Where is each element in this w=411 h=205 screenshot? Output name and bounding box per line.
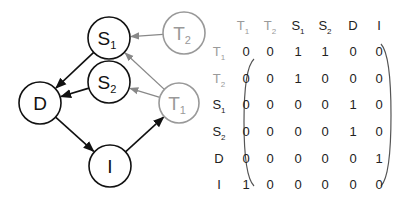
matrix-cell: 0 — [266, 97, 273, 112]
matrix-cell: 0 — [349, 151, 356, 166]
matrix-cells: 001100001000000010000010000001100000 — [242, 44, 382, 192]
column-header: S1 — [291, 18, 305, 36]
matrix-cell: 1 — [349, 97, 356, 112]
column-header: T1 — [237, 18, 250, 36]
matrix-cell: 0 — [375, 97, 382, 112]
matrix-cell: 0 — [294, 124, 301, 139]
matrix-cell: 0 — [294, 151, 301, 166]
matrix-cell: 0 — [375, 177, 382, 192]
matrix-cell: 0 — [349, 177, 356, 192]
matrix-cell: 0 — [321, 97, 328, 112]
matrix-cell: 0 — [242, 151, 249, 166]
matrix-cell: 0 — [242, 71, 249, 86]
matrix-cell: 0 — [375, 44, 382, 59]
matrix-cell: 0 — [321, 71, 328, 86]
column-header: I — [377, 18, 381, 33]
matrix-cell: 1 — [242, 177, 249, 192]
matrix-cell: 0 — [242, 97, 249, 112]
row-header: T2 — [213, 71, 226, 89]
matrix-cell: 0 — [266, 177, 273, 192]
row-header: T1 — [213, 44, 226, 62]
row-header: I — [217, 177, 221, 192]
matrix-cell: 0 — [266, 44, 273, 59]
row-header: S1 — [212, 97, 226, 115]
matrix-cell: 0 — [321, 124, 328, 139]
matrix-cell: 0 — [294, 97, 301, 112]
matrix-cell: 1 — [294, 44, 301, 59]
matrix-cell: 0 — [349, 71, 356, 86]
column-header: D — [348, 18, 357, 33]
matrix-cell: 0 — [375, 71, 382, 86]
row-header: S2 — [212, 124, 226, 142]
matrix-cell: 1 — [321, 44, 328, 59]
matrix-cell: 0 — [266, 124, 273, 139]
matrix-cell: 0 — [349, 44, 356, 59]
matrix-row-headers: T1T2S1S2DI — [212, 44, 226, 192]
adjacency-matrix: T1T2S1S2DI T1T2S1S2DI 001100001000000010… — [0, 0, 411, 205]
matrix-cell: 1 — [349, 124, 356, 139]
matrix-cell: 0 — [266, 71, 273, 86]
column-header: T2 — [264, 18, 277, 36]
matrix-column-headers: T1T2S1S2DI — [237, 18, 381, 36]
matrix-cell: 0 — [242, 44, 249, 59]
matrix-cell: 0 — [321, 151, 328, 166]
matrix-cell: 0 — [375, 124, 382, 139]
matrix-cell: 1 — [294, 71, 301, 86]
matrix-cell: 0 — [294, 177, 301, 192]
matrix-cell: 0 — [266, 151, 273, 166]
matrix-cell: 1 — [375, 151, 382, 166]
matrix-cell: 0 — [321, 177, 328, 192]
column-header: S2 — [318, 18, 332, 36]
row-header: D — [214, 151, 223, 166]
matrix-cell: 0 — [242, 124, 249, 139]
